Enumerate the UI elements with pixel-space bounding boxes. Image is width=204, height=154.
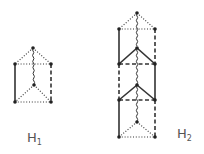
edge-dotted [33,48,51,64]
vertex-lb [13,100,17,104]
label-h2: H2 [177,126,192,143]
edge-dotted [137,122,155,137]
vertex-r3 [153,98,157,102]
graph-h2 [117,11,157,139]
vertex-mid [32,83,36,87]
vertex-l4 [117,135,121,139]
label-h2-sub: 2 [187,134,192,143]
edge-dotted [34,85,51,102]
vertex-l1 [117,27,121,31]
edge-dotted [119,13,137,29]
vertex-r2 [153,62,157,66]
graph-figures [13,11,157,139]
edge-solid [137,48,155,64]
edge-solid [119,48,137,64]
edge-wavy [136,48,137,84]
vertex-top [31,46,35,50]
vertex-l2 [117,62,121,66]
edge-wavy [32,48,34,84]
graph-diagram: H1 H2 [0,0,204,154]
vertex-top [135,11,139,15]
vertex-m3 [135,120,139,124]
label-h2-main: H [177,126,187,141]
vertex-lt [13,62,17,66]
label-h1: H1 [27,130,42,147]
edge-dotted [15,85,34,102]
vertex-m1 [135,46,139,50]
label-h1-main: H [27,130,37,145]
vertex-rb [49,100,53,104]
vertex-l3 [117,98,121,102]
label-h1-sub: 1 [37,138,42,147]
vertex-m2 [135,83,139,87]
vertex-r4 [153,135,157,139]
vertex-r1 [153,27,157,31]
edge-wavy [136,85,137,121]
edge-dotted [119,122,137,137]
vertex-rt [49,62,53,66]
edge-dotted [15,48,33,64]
graph-h1 [13,46,53,104]
edge-dotted [137,13,155,29]
edge-solid [137,85,155,100]
edge-solid [119,85,137,100]
